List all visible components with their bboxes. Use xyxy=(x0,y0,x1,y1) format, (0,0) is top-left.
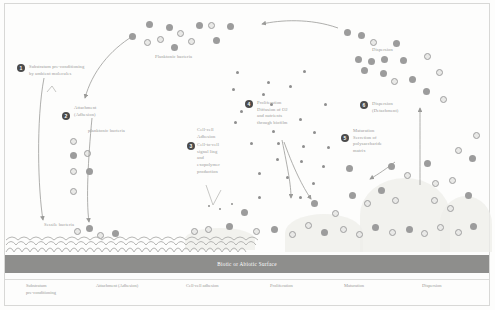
nutrient-dot xyxy=(208,205,210,207)
bacterium-cell xyxy=(370,39,377,46)
bacterium-cell xyxy=(332,210,339,217)
bacterium-cell xyxy=(423,88,430,95)
bacterium-cell xyxy=(364,200,371,207)
bacterium-cell xyxy=(188,38,195,45)
bacterium-cell xyxy=(340,226,347,233)
bacterium-cell xyxy=(358,32,365,39)
bacterium-cell xyxy=(380,70,387,77)
bacterium-cell xyxy=(440,96,447,103)
bacterium-cell xyxy=(305,222,312,229)
bacterium-cell xyxy=(311,200,318,207)
bacterium-cell xyxy=(432,180,439,187)
nutrient-dot xyxy=(312,182,315,185)
bacterium-cell xyxy=(391,78,398,85)
step-label-6: Dispersion (Detachment) xyxy=(372,101,422,114)
bacterium-cell xyxy=(381,56,388,63)
nutrient-dot xyxy=(258,196,261,199)
bacterium-cell xyxy=(473,132,480,139)
bacterium-cell xyxy=(368,58,375,65)
bacterium-cell xyxy=(205,226,212,233)
planktonic-bacteria-label: Planktonic bacteria xyxy=(155,54,192,61)
bacterium-cell xyxy=(356,231,363,238)
surface-bar-label: Biotic or Abiotic Surface xyxy=(5,255,489,273)
bacterium-cell xyxy=(70,168,77,175)
nutrient-dot xyxy=(232,88,235,91)
bacterium-cell xyxy=(241,209,248,216)
bacterium-cell xyxy=(388,163,395,170)
bacterium-cell xyxy=(97,232,104,239)
bacterium-cell xyxy=(84,150,91,157)
bacterium-cell xyxy=(455,147,462,154)
bacterium-cell xyxy=(355,56,362,63)
step-label-3-head: Cell-cell Adhesion xyxy=(197,127,243,140)
nutrient-dot xyxy=(302,145,305,148)
dispersion-cloud-label: Dispersion xyxy=(372,47,393,54)
nutrient-dot xyxy=(303,70,306,73)
step-badge-6: 6 xyxy=(360,101,368,109)
bacterium-cell xyxy=(70,138,77,145)
step-label-5: Maturation Secretion of polysaccharide m… xyxy=(353,128,401,155)
phase-label-1: Substratum pre-conditioning xyxy=(26,283,88,297)
bacterium-cell xyxy=(361,67,368,74)
nutrient-dot xyxy=(267,81,270,84)
nutrient-dot xyxy=(313,131,316,134)
step-label-1: Substratum pre-conditioning by ambient m… xyxy=(29,64,117,77)
phase-label-4: Proliferation xyxy=(270,283,330,290)
bacterium-cell xyxy=(226,223,233,230)
step-badge-3: 3 xyxy=(187,142,195,150)
bacterium-cell xyxy=(469,155,476,162)
bacterium-cell xyxy=(112,230,119,237)
step-label-4: Proliferation Diffusion of O2 and nutrie… xyxy=(257,100,307,127)
step-label-2: Attachment (Adhesion) xyxy=(74,105,130,118)
bacterium-cell xyxy=(289,231,296,238)
bacterium-cell xyxy=(70,152,77,159)
bacterium-cell xyxy=(449,177,456,184)
bacterium-cell xyxy=(208,22,215,29)
bacterium-cell xyxy=(349,192,356,199)
bacterium-cell xyxy=(400,57,407,64)
biofilm-mound-right xyxy=(360,178,450,252)
bacterium-cell xyxy=(74,228,81,235)
bacterium-cell xyxy=(157,36,164,43)
bacterium-cell xyxy=(424,160,431,167)
bacterium-cell xyxy=(213,37,220,44)
sessile-bacteria-label: Sessile bacteria xyxy=(44,222,74,229)
bacterium-cell xyxy=(86,168,93,175)
biofilm-formation-diagram: Biotic or Abiotic Surface Planktonic bac… xyxy=(0,0,495,310)
bacterium-cell xyxy=(191,228,198,235)
nutrient-dot xyxy=(231,203,233,205)
nutrient-dot xyxy=(300,160,303,163)
bacterium-cell xyxy=(196,22,203,29)
bacterium-cell xyxy=(253,228,260,235)
step-label-3-body: Cell-to-cell signal ling and exopolymer … xyxy=(197,142,243,175)
nutrient-dot xyxy=(258,172,261,175)
bacterium-cell xyxy=(86,225,93,232)
nutrient-dot xyxy=(276,158,279,161)
bacterium-cell xyxy=(271,226,278,233)
nutrient-dot xyxy=(277,142,280,145)
nutrient-dot xyxy=(234,121,237,124)
phase-label-5: Maturation xyxy=(344,283,402,290)
bacterium-cell xyxy=(389,229,396,236)
bacterium-cell xyxy=(177,30,184,37)
step-badge-2: 2 xyxy=(62,112,70,120)
bacterium-cell xyxy=(70,188,77,195)
bacterium-cell xyxy=(321,229,328,236)
bacterium-cell xyxy=(346,165,353,172)
step-badge-1: 1 xyxy=(17,64,25,72)
nutrient-dot xyxy=(289,85,292,88)
nutrient-dot xyxy=(250,142,253,145)
nutrient-dot xyxy=(286,176,289,179)
phase-label-6: Dispersion xyxy=(422,283,480,290)
bacterium-cell xyxy=(421,230,428,237)
planktonic-bacteria-label-2: planktonic bacteria xyxy=(88,128,125,135)
nutrient-dot xyxy=(327,146,330,149)
bacterium-cell xyxy=(409,76,416,83)
bacterium-cell xyxy=(129,33,136,40)
bacterium-cell xyxy=(447,205,454,212)
nutrient-dot xyxy=(219,208,221,210)
bacterium-cell xyxy=(171,44,178,51)
step-badge-5: 5 xyxy=(341,134,349,142)
bacterium-cell xyxy=(378,187,385,194)
bacterium-cell xyxy=(404,172,411,179)
